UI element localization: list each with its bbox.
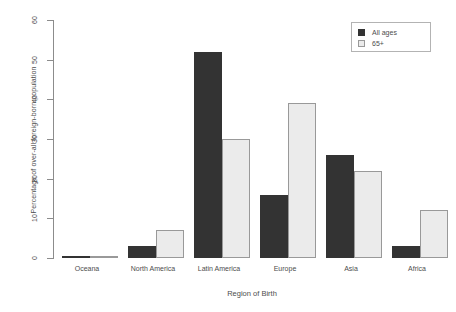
- x-axis-label: Latin America: [186, 263, 252, 274]
- legend-label: 65+: [372, 39, 384, 48]
- bar-65-plus: [420, 210, 448, 258]
- x-axis-label: North America: [120, 263, 186, 274]
- bar-65-plus: [156, 230, 184, 258]
- y-axis-tick-label: 40: [30, 86, 40, 112]
- legend-item-all-ages: All ages: [358, 27, 397, 38]
- legend: All ages 65+: [351, 22, 431, 52]
- legend-item-65-plus: 65+: [358, 38, 384, 49]
- bar-group: [326, 20, 382, 258]
- bar-group: [128, 20, 184, 258]
- x-axis-label: Asia: [318, 263, 384, 274]
- bar-group: [260, 20, 316, 258]
- y-axis-tick-label: 60: [30, 7, 40, 33]
- bar-all-ages: [62, 256, 90, 258]
- legend-label: All ages: [372, 28, 397, 37]
- bar-group: [392, 20, 448, 258]
- y-axis-tick: [47, 218, 53, 219]
- x-axis-label: Europe: [252, 263, 318, 274]
- y-axis-tick-label: 0: [30, 245, 40, 271]
- x-axis-title: Region of Birth: [54, 288, 450, 300]
- y-axis-tick: [47, 99, 53, 100]
- bar-group: [194, 20, 250, 258]
- dark-square-icon: [358, 29, 365, 36]
- bar-all-ages: [194, 52, 222, 258]
- y-axis-tick: [47, 179, 53, 180]
- y-axis-tick: [47, 60, 53, 61]
- x-axis-label: Oceana: [54, 263, 120, 274]
- bar-65-plus: [354, 171, 382, 258]
- y-axis-tick: [47, 139, 53, 140]
- light-square-icon: [358, 40, 365, 47]
- bar-chart: Percentage of over-all foreign-born popu…: [0, 0, 456, 312]
- bar-65-plus: [90, 256, 118, 258]
- bar-group: [62, 20, 118, 258]
- y-axis-tick-label: 50: [30, 47, 40, 73]
- bar-all-ages: [326, 155, 354, 258]
- y-axis-tick-label: 10: [30, 205, 40, 231]
- y-axis-tick-label: 30: [30, 126, 40, 152]
- bar-65-plus: [222, 139, 250, 258]
- bar-65-plus: [288, 103, 316, 258]
- plot-area: [54, 20, 450, 258]
- x-axis-line: [53, 258, 54, 259]
- y-axis-tick: [47, 20, 53, 21]
- y-axis-tick-label: 20: [30, 166, 40, 192]
- x-axis-label: Africa: [384, 263, 450, 274]
- bar-all-ages: [260, 195, 288, 258]
- bar-all-ages: [392, 246, 420, 258]
- bar-all-ages: [128, 246, 156, 258]
